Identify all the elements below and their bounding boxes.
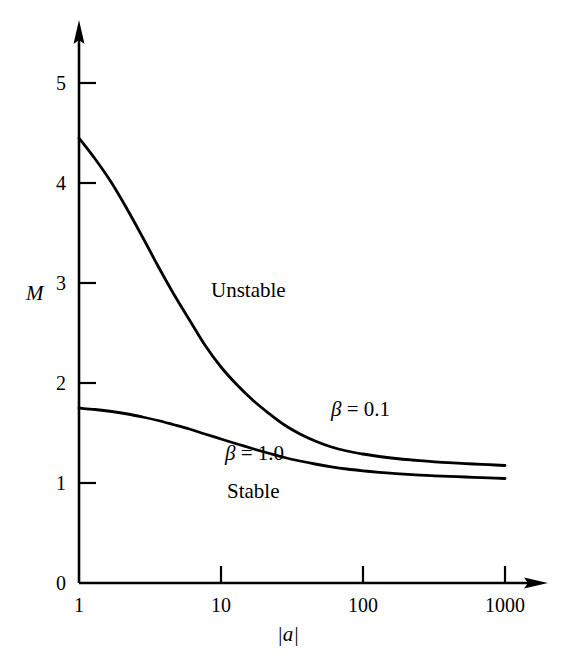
x-tick-label: 1000 [465, 595, 545, 615]
beta-value-1-0: 1.0 [258, 441, 284, 465]
y-tick-label: 1 [36, 473, 66, 493]
y-tick-label: 2 [36, 373, 66, 393]
stability-chart-figure: 012345 1101001000 M |a| Unstable Stable … [0, 0, 574, 663]
beta-symbol-1-0: β [225, 441, 235, 465]
x-axis-ticks [221, 566, 505, 583]
region-label-stable: Stable [227, 481, 280, 502]
equals-symbol-1-0: = [235, 441, 257, 465]
x-axis-title: |a| [277, 624, 299, 645]
curve-series-beta-1-0 [79, 408, 505, 479]
y-axis-group [74, 20, 85, 583]
x-tick-label: 100 [323, 595, 403, 615]
curve-label-beta-1-0: β = 1.0 [225, 443, 284, 464]
chart-canvas [0, 0, 574, 663]
region-label-unstable: Unstable [211, 280, 286, 301]
equals-symbol-0-1: = [341, 397, 363, 421]
beta-value-0-1: 0.1 [364, 397, 390, 421]
x-tick-label: 1 [39, 595, 119, 615]
y-axis-title: M [26, 283, 44, 304]
y-tick-label: 0 [36, 573, 66, 593]
curve-label-beta-0-1: β = 0.1 [331, 399, 390, 420]
y-tick-label: 4 [36, 173, 66, 193]
data-curves [79, 138, 505, 479]
x-axis-group [79, 578, 548, 589]
beta-symbol-0-1: β [331, 397, 341, 421]
y-tick-label: 5 [36, 73, 66, 93]
x-tick-label: 10 [181, 595, 261, 615]
